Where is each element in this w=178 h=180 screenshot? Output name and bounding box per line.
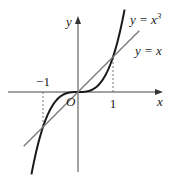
axes	[8, 16, 163, 172]
cubic-curve-label: y = x3	[128, 11, 162, 27]
chart: −11y = x3y = x x y O	[0, 0, 178, 180]
y-axis-label: y	[64, 14, 72, 29]
origin-label: O	[66, 94, 76, 109]
identity-line-label: y = x	[133, 43, 162, 58]
x-axis-label: x	[156, 94, 163, 109]
x-tick-label: −1	[36, 74, 50, 89]
x-tick-label: 1	[110, 96, 117, 111]
y-axis-arrow-icon	[75, 16, 81, 24]
exponent: 3	[156, 11, 162, 21]
